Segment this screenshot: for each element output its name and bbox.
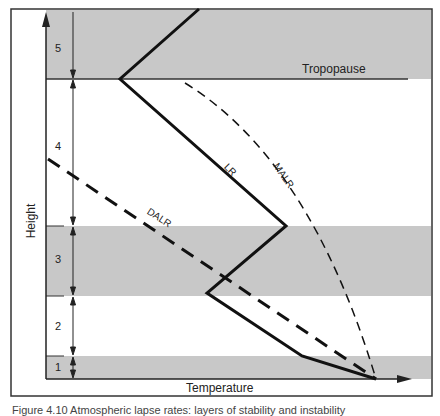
layer-5-band bbox=[46, 10, 431, 79]
layer-3-band bbox=[46, 226, 431, 296]
layer-label-5: 5 bbox=[55, 42, 61, 54]
temperature-axis-label: Temperature bbox=[186, 381, 253, 395]
figure-caption: Figure 4.10 Atmospheric lapse rates: lay… bbox=[12, 404, 345, 416]
layer-label-4: 4 bbox=[55, 140, 61, 152]
layer-label-2: 2 bbox=[55, 320, 61, 332]
layer-label-1: 1 bbox=[55, 361, 61, 373]
layer-label-3: 3 bbox=[55, 253, 61, 265]
height-axis-label: Height bbox=[24, 204, 38, 239]
layer-1-band bbox=[46, 356, 431, 379]
tropopause-label: Tropopause bbox=[302, 62, 366, 76]
